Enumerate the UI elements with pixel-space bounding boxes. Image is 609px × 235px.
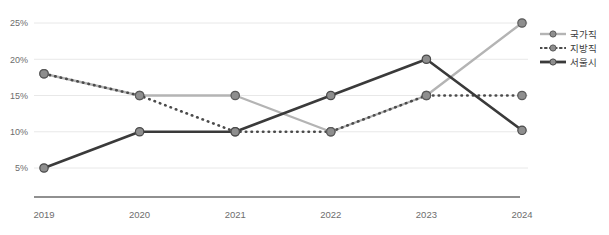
x-tick-label: 2019: [33, 209, 54, 220]
chart-plot-area: 5%10%15%20%25%201920202021202220232024: [0, 0, 609, 235]
data-point-marker: [422, 91, 430, 99]
legend-label-national: 국가직: [570, 27, 596, 41]
legend-swatch-local-icon: [540, 42, 566, 54]
data-point-marker: [40, 70, 48, 78]
data-point-marker: [231, 91, 239, 99]
y-tick-label: 20%: [10, 55, 28, 65]
y-tick-label: 25%: [10, 18, 28, 28]
x-tick-label: 2020: [129, 209, 150, 220]
y-tick-label: 10%: [10, 127, 28, 137]
legend-label-local: 지방직: [570, 41, 596, 55]
data-point-marker: [422, 55, 430, 63]
line-chart: 5%10%15%20%25%201920202021202220232024 국…: [0, 0, 609, 235]
data-point-marker: [135, 128, 143, 136]
series-line: [44, 74, 522, 132]
legend-item-local[interactable]: 지방직: [540, 41, 609, 55]
x-tick-label: 2023: [416, 209, 437, 220]
legend-swatch-national-icon: [540, 28, 566, 40]
x-tick-label: 2021: [225, 209, 246, 220]
data-point-marker: [518, 91, 526, 99]
data-point-marker: [518, 19, 526, 27]
legend-item-national[interactable]: 국가직: [540, 27, 609, 41]
data-point-marker: [327, 91, 335, 99]
data-point-marker: [135, 91, 143, 99]
y-tick-label: 5%: [15, 163, 28, 173]
data-point-marker: [518, 126, 526, 134]
data-point-marker: [327, 128, 335, 136]
x-tick-label: 2024: [511, 209, 532, 220]
data-point-marker: [40, 164, 48, 172]
legend-label-seoul: 서울시: [570, 55, 596, 69]
legend-item-seoul[interactable]: 서울시: [540, 55, 609, 69]
series-line: [44, 59, 522, 168]
y-tick-label: 15%: [10, 91, 28, 101]
data-point-marker: [231, 128, 239, 136]
legend-swatch-seoul-icon: [540, 56, 566, 68]
x-tick-label: 2022: [320, 209, 341, 220]
chart-legend: 국가직 지방직 서울시: [540, 27, 609, 69]
